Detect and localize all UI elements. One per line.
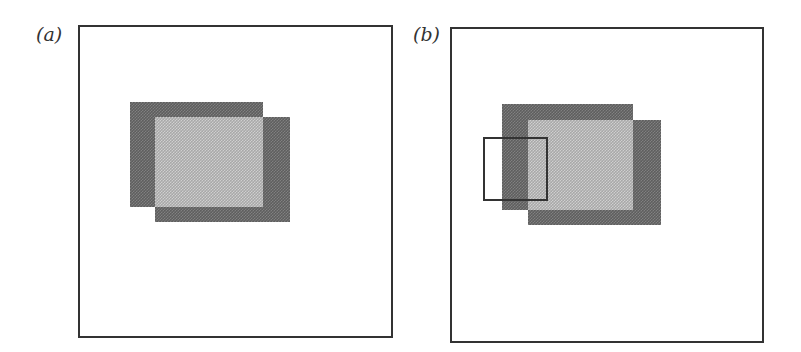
panel-a-overlap-region [155,117,263,207]
panel-b-label: (b) [413,25,440,44]
panel-a-label: (a) [36,25,62,44]
panel-b-selection-box [483,137,548,201]
